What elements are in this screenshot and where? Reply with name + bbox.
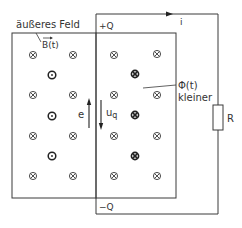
resistor [213, 105, 223, 130]
resistor-label: R [227, 113, 234, 124]
flux-leader [143, 85, 176, 88]
source-voltage-arrowhead-icon [99, 123, 103, 130]
external-field-label: äußeres Feld [16, 19, 80, 30]
emf-arrowhead-icon [87, 98, 91, 105]
minus-charge-label: −Q [99, 202, 114, 212]
induction-diagram: i R +Q −Q äußeres Feld B(t) Φ(t) kleiner… [0, 0, 242, 228]
current-label: i [180, 17, 183, 27]
flux-label: Φ(t) [178, 80, 198, 91]
flux-note: kleiner [178, 92, 213, 103]
plus-charge-label: +Q [99, 21, 114, 31]
external-field-leader [36, 33, 41, 42]
emf-label: e [78, 109, 84, 120]
b-field-label: B(t) [42, 40, 59, 50]
source-voltage-label: uq [106, 107, 117, 120]
current-arrow-icon [166, 12, 173, 17]
